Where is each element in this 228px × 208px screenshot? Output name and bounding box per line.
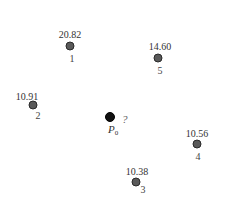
point-2-index: 2 <box>36 111 41 121</box>
point-5-value: 14.60 <box>149 42 172 52</box>
point-4-index: 4 <box>196 152 201 162</box>
point-3-index: 3 <box>141 185 146 195</box>
point-1-value: 20.82 <box>59 30 82 40</box>
unknown-value: ? <box>122 114 128 125</box>
point-3-marker-icon <box>132 178 141 187</box>
point-5-index: 5 <box>158 66 163 76</box>
point-4-value: 10.56 <box>186 129 209 139</box>
point-1-marker-icon <box>66 42 75 51</box>
point-2-marker-icon <box>29 101 38 110</box>
target-point-marker-icon <box>105 112 115 122</box>
point-5-marker-icon <box>154 54 163 63</box>
target-point-label: P0 <box>108 124 118 139</box>
point-value-diagram: 20.82 1 14.60 5 10.91 2 ? P0 10.56 4 10.… <box>0 0 228 208</box>
target-label-letter: P <box>108 123 115 135</box>
point-4-marker-icon <box>193 140 202 149</box>
point-1-index: 1 <box>70 54 75 64</box>
point-3-value: 10.38 <box>126 167 149 177</box>
target-label-subscript: 0 <box>115 129 119 137</box>
